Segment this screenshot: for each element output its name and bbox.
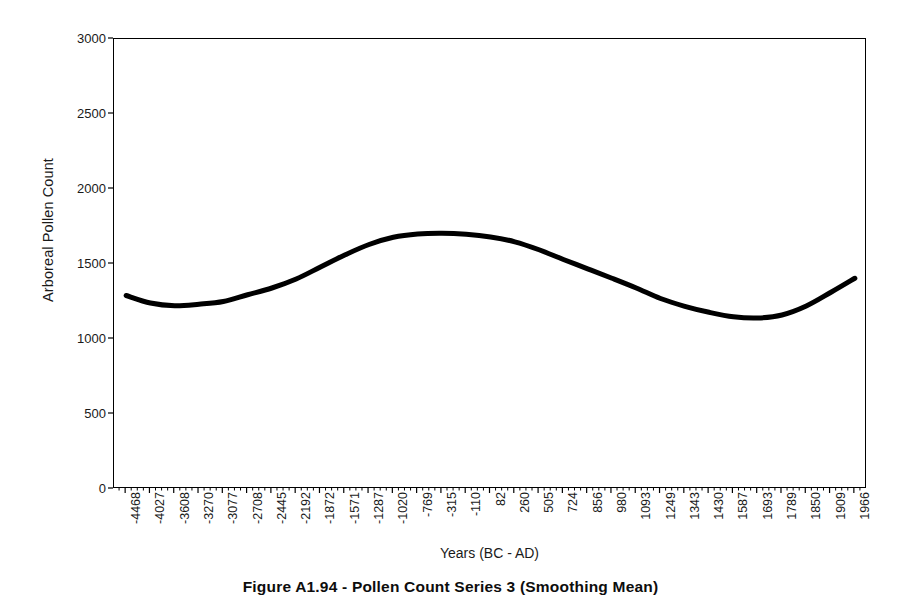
x-tick-label: -3270 — [203, 492, 216, 524]
x-tick-label: 1909 — [835, 492, 848, 520]
x-tick-label: -4468 — [130, 492, 143, 524]
x-tick-label: -2445 — [276, 492, 289, 524]
x-tick-label: -2192 — [300, 492, 313, 524]
data-series-line — [126, 233, 855, 318]
y-tick-label: 500 — [58, 406, 106, 421]
x-tick-label: 1587 — [737, 492, 750, 520]
x-tick-label: 1430 — [713, 492, 726, 520]
x-tick-label: -4027 — [154, 492, 167, 524]
x-tick-label: 1343 — [689, 492, 702, 520]
x-tick-label: 856 — [592, 492, 605, 513]
x-tick-label: -1571 — [349, 492, 362, 524]
x-tick-label: 1093 — [640, 492, 653, 520]
line-chart-svg — [114, 39, 867, 489]
y-tick-label: 1000 — [58, 331, 106, 346]
x-tick-label: 1693 — [762, 492, 775, 520]
y-axis-tick-labels: 050010001500200025003000 — [54, 0, 106, 598]
x-axis-tick-labels: -4468-4027-3608-3270-3077-2708-2445-2192… — [113, 492, 866, 542]
x-tick-label: -1287 — [373, 492, 386, 524]
x-tick-label: -2708 — [252, 492, 265, 524]
x-tick-label: -3608 — [179, 492, 192, 524]
x-tick-label: 1850 — [810, 492, 823, 520]
figure-container: Arboreal Pollen Count 050010001500200025… — [0, 0, 901, 598]
x-tick-label: -1872 — [324, 492, 337, 524]
x-tick-label: -1020 — [397, 492, 410, 524]
x-tick-label: -315 — [446, 492, 459, 517]
x-tick-label: 260 — [519, 492, 532, 513]
x-tick-label: 82 — [495, 492, 508, 506]
y-tick-label: 1500 — [58, 256, 106, 271]
y-tick-label: 2500 — [58, 106, 106, 121]
x-tick-label: -769 — [422, 492, 435, 517]
x-tick-label: 1789 — [786, 492, 799, 520]
x-tick-label: 1966 — [859, 492, 872, 520]
x-axis-title: Years (BC - AD) — [113, 545, 866, 561]
figure-caption: Figure A1.94 - Pollen Count Series 3 (Sm… — [0, 578, 901, 596]
y-tick-label: 2000 — [58, 181, 106, 196]
plot-area — [113, 38, 866, 488]
x-tick-label: 980 — [616, 492, 629, 513]
x-tick-label: 1249 — [665, 492, 678, 520]
y-tick-label: 0 — [58, 481, 106, 496]
x-tick-label: 724 — [567, 492, 580, 513]
x-tick-label: 505 — [543, 492, 556, 513]
y-tick-label: 3000 — [58, 31, 106, 46]
x-tick-label: -3077 — [227, 492, 240, 524]
x-tick-label: -110 — [470, 492, 483, 516]
